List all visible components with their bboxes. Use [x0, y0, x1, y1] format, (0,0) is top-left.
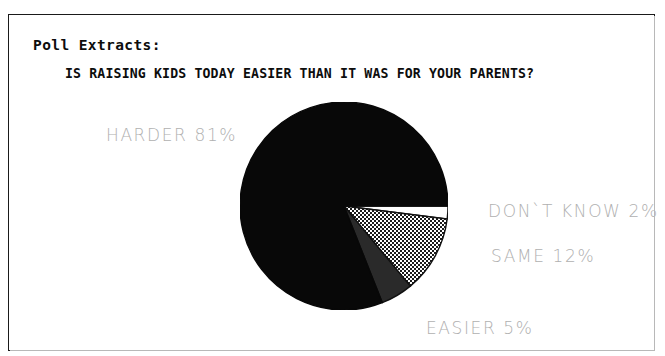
poll-extracts-figure: Poll Extracts: IS RAISING KIDS TODAY EAS…	[0, 0, 665, 356]
section-label: Poll Extracts:	[33, 37, 161, 53]
figure-frame: Poll Extracts: IS RAISING KIDS TODAY EAS…	[8, 14, 655, 351]
pie-chart-svg	[240, 102, 448, 310]
pie-label-same: SAME 12%	[491, 246, 595, 266]
pie-label-dont-know: DON`T KNOW 2%	[488, 201, 659, 221]
pie-slices	[240, 102, 448, 310]
pie-label-harder: HARDER 81%	[106, 125, 237, 145]
page-title: IS RAISING KIDS TODAY EASIER THAN IT WAS…	[65, 66, 534, 81]
pie-chart	[240, 102, 448, 310]
pie-label-easier: EASIER 5%	[426, 318, 534, 338]
